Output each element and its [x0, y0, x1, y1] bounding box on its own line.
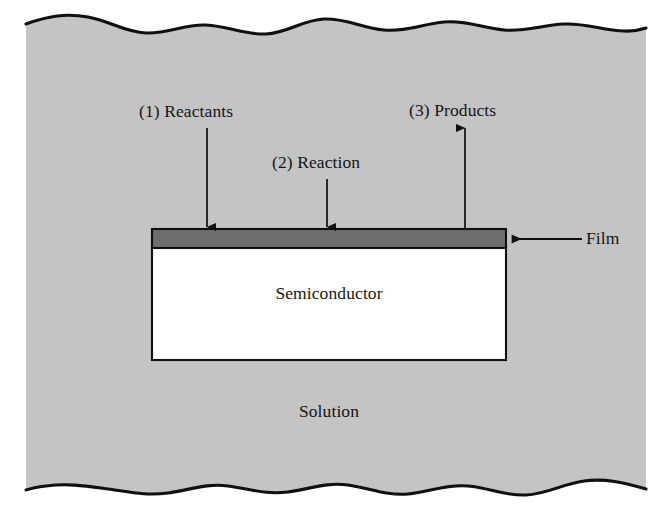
label-reactants: (1) Reactants	[139, 101, 233, 122]
film-layer	[152, 229, 506, 248]
label-film: Film	[586, 228, 619, 249]
diagram-canvas	[0, 0, 671, 520]
figure-root: (1) Reactants (2) Reaction (3) Products …	[0, 0, 671, 520]
label-reaction: (2) Reaction	[272, 152, 360, 173]
label-solution: Solution	[0, 401, 658, 422]
label-semiconductor: Semiconductor	[0, 283, 658, 304]
label-products: (3) Products	[409, 100, 496, 121]
